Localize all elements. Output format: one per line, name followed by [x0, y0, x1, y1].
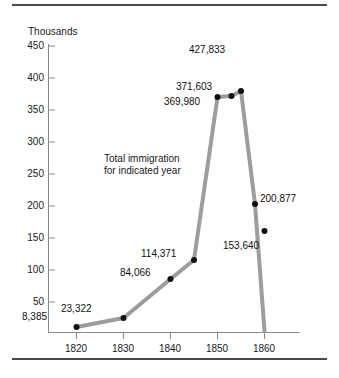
point-label-23322: 23,322 [61, 303, 92, 314]
y-tick-label-100: 100 [18, 265, 44, 275]
data-point [215, 94, 221, 100]
point-label-369980: 369,980 [164, 96, 200, 107]
y-tick-label-400: 400 [18, 73, 44, 83]
data-point [191, 257, 197, 263]
plot-area [0, 0, 339, 378]
x-tick-label-1840: 1840 [150, 344, 190, 354]
point-label-8385: 8,385 [22, 311, 47, 322]
y-tick-label-150: 150 [18, 233, 44, 243]
data-markers [74, 88, 268, 330]
x-tick-label-1830: 1830 [103, 344, 143, 354]
y-tick-label-350: 350 [18, 105, 44, 115]
y-tick-label-300: 300 [18, 137, 44, 147]
x-tick-label-1860: 1860 [244, 344, 284, 354]
data-point [238, 88, 244, 94]
x-axis-ticks [77, 333, 265, 340]
data-point [262, 228, 268, 234]
y-axis-ticks [49, 46, 56, 302]
data-point [168, 276, 174, 282]
data-point [252, 201, 258, 207]
point-label-200877: 200,877 [260, 193, 296, 204]
y-tick-label-50: 50 [18, 297, 44, 307]
point-label-84066: 84,066 [120, 267, 151, 278]
data-point [121, 315, 127, 321]
y-tick-label-450: 450 [18, 41, 44, 51]
chart-figure: Thousands [0, 0, 339, 378]
y-tick-label-250: 250 [18, 169, 44, 179]
x-tick-label-1850: 1850 [197, 344, 237, 354]
data-point [74, 324, 80, 330]
immigration-line [77, 91, 265, 331]
point-label-371603: 371,603 [176, 81, 212, 92]
annotation-line-1: Total immigration [104, 153, 181, 165]
point-label-114371: 114,371 [141, 248, 176, 259]
data-point [229, 93, 235, 99]
series-annotation: Total immigration for indicated year [104, 153, 181, 177]
x-tick-label-1820: 1820 [56, 344, 96, 354]
point-label-427833: 427,833 [189, 44, 225, 55]
point-label-153640: 153,640 [223, 240, 259, 251]
annotation-line-2: for indicated year [104, 165, 181, 177]
y-tick-label-200: 200 [18, 201, 44, 211]
